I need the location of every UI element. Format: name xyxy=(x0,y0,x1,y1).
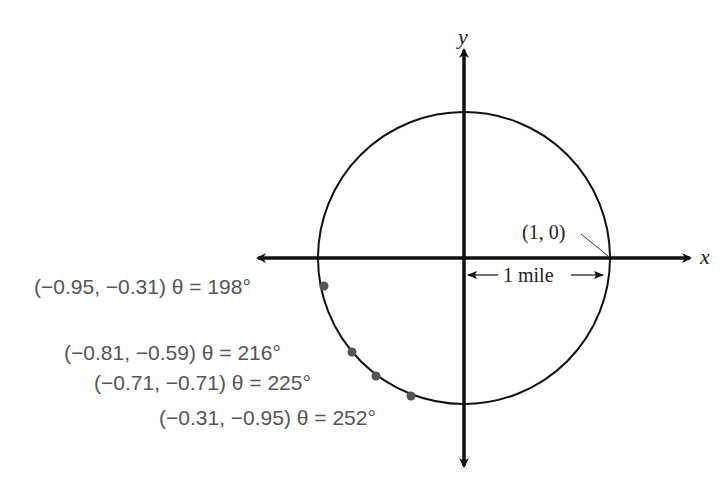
point-angle: θ = 198° xyxy=(172,275,251,298)
y-axis-label: y xyxy=(458,26,468,48)
unit-circle-diagram: y x (1, 0) 1 mile (−0.95, −0.31) θ = 198… xyxy=(0,0,725,482)
point-label-225: (−0.71, −0.71) θ = 225° xyxy=(94,372,311,393)
point-label-252: (−0.31, −0.95) θ = 252° xyxy=(159,407,376,428)
point-coords: (−0.31, −0.95) xyxy=(159,406,291,429)
x-axis-label: x xyxy=(700,246,710,268)
radius-label: 1 mile xyxy=(503,265,554,285)
reference-point-label: (1, 0) xyxy=(522,222,565,242)
point-216 xyxy=(348,348,357,357)
point-label-198: (−0.95, −0.31) θ = 198° xyxy=(34,276,251,297)
point-coords: (−0.81, −0.59) xyxy=(64,341,196,364)
point-angle: θ = 252° xyxy=(297,406,376,429)
point-angle: θ = 216° xyxy=(202,341,281,364)
point-252 xyxy=(407,392,416,401)
point-angle: θ = 225° xyxy=(232,371,311,394)
point-198 xyxy=(320,282,329,291)
reference-point-leader xyxy=(581,234,608,256)
point-coords: (−0.95, −0.31) xyxy=(34,275,166,298)
point-coords: (−0.71, −0.71) xyxy=(94,371,226,394)
point-225 xyxy=(372,372,381,381)
point-label-216: (−0.81, −0.59) θ = 216° xyxy=(64,342,281,363)
